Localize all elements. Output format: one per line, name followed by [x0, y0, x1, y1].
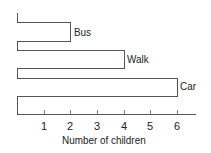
x-tick-label-1: 1	[38, 120, 50, 132]
x-axis-label: Number of children	[62, 134, 146, 146]
bar-label-car: Car	[180, 80, 196, 92]
x-tick-1	[44, 110, 45, 114]
x-tick-label-3: 3	[91, 120, 103, 132]
x-tick-4	[124, 110, 125, 114]
bar-label-walk: Walk	[127, 53, 149, 65]
bar-walk	[17, 50, 125, 69]
x-tick-label-5: 5	[144, 120, 156, 132]
bar-bus	[17, 22, 71, 42]
x-tick-2	[70, 110, 71, 114]
x-tick-label-6: 6	[171, 120, 183, 132]
bar-chart: Bus Walk Car 1 2 3 4 5 6 Number of child…	[0, 0, 211, 153]
x-axis	[17, 114, 196, 115]
x-tick-3	[97, 110, 98, 114]
x-tick-5	[150, 110, 151, 114]
bar-label-bus: Bus	[74, 26, 91, 38]
x-tick-label-2: 2	[64, 120, 76, 132]
x-tick-label-4: 4	[118, 120, 130, 132]
bar-car	[17, 78, 178, 97]
x-tick-6	[177, 110, 178, 114]
